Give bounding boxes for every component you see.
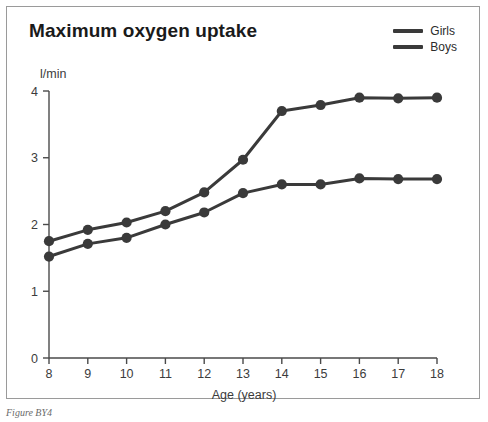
x-tick-label: 12 <box>197 367 211 381</box>
y-tick-label: 2 <box>31 218 38 232</box>
y-tick-label: 4 <box>31 85 38 99</box>
data-point <box>277 106 287 116</box>
data-point <box>44 251 54 261</box>
y-tick-label: 0 <box>31 352 38 366</box>
data-point <box>83 225 93 235</box>
x-tick-label: 13 <box>236 367 250 381</box>
data-point <box>122 233 132 243</box>
data-point <box>160 206 170 216</box>
y-tick-label: 1 <box>31 285 38 299</box>
figure-panel: Maximum oxygen uptake Girls Boys l/min 0… <box>6 6 480 399</box>
x-tick-label: 15 <box>314 367 328 381</box>
data-point <box>354 173 364 183</box>
x-tick-label: 14 <box>275 367 289 381</box>
data-point <box>393 174 403 184</box>
data-point <box>393 93 403 103</box>
figure-caption: Figure BY4 <box>6 407 52 418</box>
x-tick-label: 18 <box>430 367 444 381</box>
y-tick-label: 3 <box>31 151 38 165</box>
data-point <box>238 188 248 198</box>
data-point <box>83 239 93 249</box>
x-tick-label: 9 <box>84 367 91 381</box>
x-tick-label: 10 <box>120 367 134 381</box>
data-point <box>44 236 54 246</box>
data-point <box>238 155 248 165</box>
x-tick-label: 17 <box>391 367 405 381</box>
x-tick-label: 11 <box>159 367 172 381</box>
data-point <box>122 217 132 227</box>
data-point <box>160 219 170 229</box>
data-point <box>199 207 209 217</box>
data-point <box>199 187 209 197</box>
data-point <box>432 93 442 103</box>
series-line-girls <box>49 98 437 242</box>
data-point <box>316 179 326 189</box>
data-point <box>354 93 364 103</box>
chart-plot: 0123489101112131415161718 <box>7 7 481 400</box>
data-point <box>277 179 287 189</box>
x-tick-label: 16 <box>352 367 366 381</box>
data-point <box>316 100 326 110</box>
x-tick-label: 8 <box>46 367 53 381</box>
data-point <box>432 174 442 184</box>
x-axis-title: Age (years) <box>7 388 481 402</box>
